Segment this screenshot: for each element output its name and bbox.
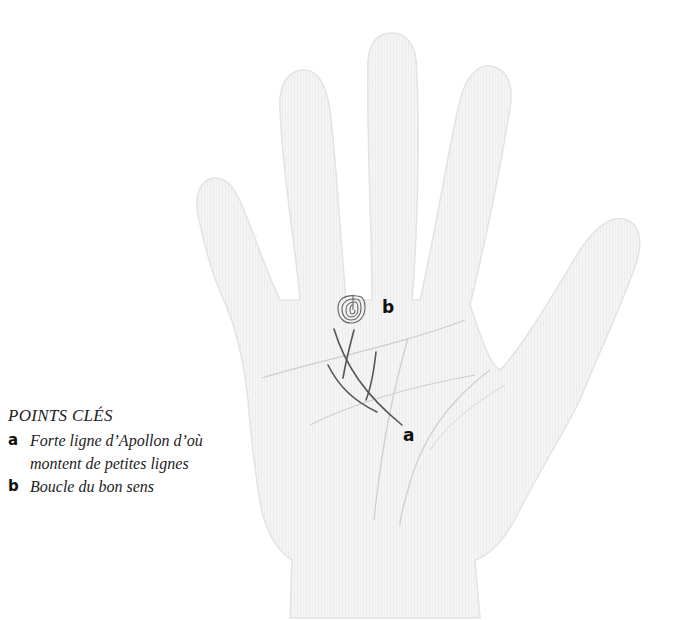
hand-illustration [0, 0, 682, 620]
legend-title: POINTS CLÉS [8, 405, 238, 427]
key-points-legend: POINTS CLÉS a Forte ligne d’Apollon d’où… [8, 405, 238, 498]
legend-text-b: Boucle du bon sens [30, 475, 154, 498]
legend-text-a: Forte ligne d’Apollon d’où montent de pe… [30, 429, 205, 475]
marker-a: a [403, 427, 414, 444]
legend-item-a: a Forte ligne d’Apollon d’où montent de … [8, 429, 238, 475]
legend-key-b: b [8, 475, 30, 498]
marker-b: b [382, 299, 394, 316]
legend-item-b: b Boucle du bon sens [8, 475, 238, 498]
hand-silhouette [197, 33, 640, 618]
legend-key-a: a [8, 429, 30, 452]
